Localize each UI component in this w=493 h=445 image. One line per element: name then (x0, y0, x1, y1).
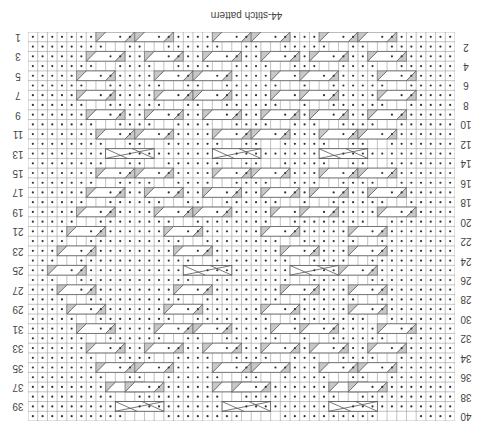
purl-dot (158, 396, 160, 398)
purl-dot (371, 405, 373, 407)
purl-dot (41, 55, 43, 57)
purl-dot (265, 211, 267, 213)
purl-dot (420, 279, 422, 281)
purl-dot (410, 289, 412, 291)
purl-dot (371, 84, 373, 86)
purl-dot (100, 308, 102, 310)
purl-dot (410, 396, 412, 398)
purl-dot (410, 230, 412, 232)
purl-dot (439, 328, 441, 330)
purl-dot (410, 259, 412, 261)
purl-dot (313, 133, 315, 135)
purl-dot (158, 221, 160, 223)
purl-dot (129, 201, 131, 203)
purl-dot (51, 75, 53, 77)
purl-dot (410, 240, 412, 242)
purl-dot (177, 269, 179, 271)
purl-dot (177, 415, 179, 417)
purl-dot (371, 415, 373, 417)
purl-dot (168, 386, 170, 388)
purl-dot (129, 104, 131, 106)
purl-dot (109, 104, 111, 106)
purl-dot (90, 133, 92, 135)
purl-dot (245, 230, 247, 232)
purl-dot (352, 318, 354, 320)
purl-dot (32, 211, 34, 213)
purl-dot (148, 152, 150, 154)
purl-dot (265, 259, 267, 261)
purl-dot (274, 269, 276, 271)
purl-dot (236, 114, 238, 116)
purl-dot (71, 104, 73, 106)
purl-dot (139, 337, 141, 339)
purl-dot (148, 269, 150, 271)
purl-dot (401, 143, 403, 145)
purl-dot (401, 366, 403, 368)
purl-dot (420, 357, 422, 359)
purl-dot (362, 45, 364, 47)
purl-dot (187, 152, 189, 154)
purl-dot (430, 328, 432, 330)
purl-dot (265, 75, 267, 77)
purl-dot (323, 298, 325, 300)
purl-dot (158, 230, 160, 232)
purl-dot (187, 230, 189, 232)
purl-dot (148, 250, 150, 252)
purl-dot (313, 405, 315, 407)
purl-dot (197, 221, 199, 223)
purl-dot (323, 289, 325, 291)
purl-dot (294, 143, 296, 145)
purl-dot (449, 65, 451, 67)
purl-dot (41, 376, 43, 378)
purl-dot (32, 376, 34, 378)
purl-dot (168, 114, 170, 116)
purl-dot (371, 94, 373, 96)
purl-dot (439, 308, 441, 310)
purl-dot (420, 366, 422, 368)
purl-dot (158, 201, 160, 203)
purl-dot (100, 221, 102, 223)
purl-dot (371, 75, 373, 77)
purl-dot (342, 104, 344, 106)
purl-dot (449, 308, 451, 310)
purl-dot (187, 94, 189, 96)
purl-dot (323, 240, 325, 242)
purl-dot (119, 308, 121, 310)
purl-dot (90, 182, 92, 184)
purl-dot (51, 259, 53, 261)
purl-dot (148, 405, 150, 407)
purl-dot (32, 250, 34, 252)
purl-dot (381, 84, 383, 86)
purl-dot (401, 152, 403, 154)
purl-dot (216, 221, 218, 223)
purl-dot (284, 386, 286, 388)
purl-dot (109, 347, 111, 349)
purl-dot (362, 357, 364, 359)
purl-dot (187, 114, 189, 116)
purl-dot (274, 396, 276, 398)
purl-dot (119, 357, 121, 359)
purl-dot (71, 94, 73, 96)
purl-dot (206, 376, 208, 378)
purl-dot (41, 337, 43, 339)
purl-dot (303, 55, 305, 57)
purl-dot (51, 279, 53, 281)
purl-dot (61, 201, 63, 203)
purl-dot (177, 347, 179, 349)
purl-dot (168, 259, 170, 261)
purl-dot (449, 45, 451, 47)
purl-dot (362, 65, 364, 67)
purl-dot (303, 415, 305, 417)
purl-dot (430, 396, 432, 398)
purl-dot (255, 162, 257, 164)
purl-dot (439, 172, 441, 174)
purl-dot (294, 376, 296, 378)
purl-dot (236, 75, 238, 77)
purl-dot (80, 337, 82, 339)
purl-dot (274, 172, 276, 174)
purl-dot (420, 298, 422, 300)
purl-dot (61, 376, 63, 378)
purl-dot (226, 84, 228, 86)
purl-dot (90, 240, 92, 242)
purl-dot (61, 172, 63, 174)
